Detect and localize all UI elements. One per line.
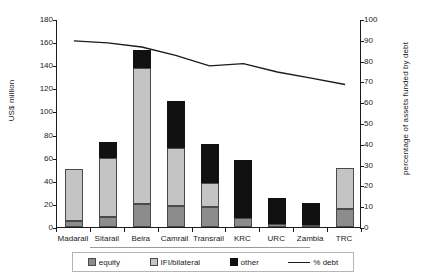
- legend-label: % debt: [313, 258, 338, 267]
- plot-area: 020406080100120140160180 010203040506070…: [56, 20, 361, 228]
- x-tickmark: [158, 228, 159, 232]
- y-tick-right-100: 100: [364, 16, 390, 24]
- chart-container: US$ million percentage of assets funded …: [0, 0, 425, 279]
- y-tick-right-30: 30: [364, 162, 390, 170]
- x-label-beira: Beira: [131, 234, 150, 243]
- legend-swatch-ifi-icon: [150, 258, 158, 266]
- legend-line-icon: [288, 262, 310, 263]
- y-tick-right-80: 80: [364, 58, 390, 66]
- x-tickmark: [259, 228, 260, 232]
- x-tickmark: [90, 228, 91, 232]
- x-label-krc: KRC: [234, 234, 251, 243]
- y-tick-left-120: 120: [27, 85, 53, 93]
- y-tick-left-40: 40: [27, 178, 53, 186]
- x-tickmark: [327, 228, 328, 232]
- y-tick-right-20: 20: [364, 182, 390, 190]
- y-axis-right-title: percentage of assets funded by debt: [401, 34, 410, 184]
- y-tick-right-70: 70: [364, 78, 390, 86]
- x-label-urc: URC: [268, 234, 285, 243]
- legend-item---debt[interactable]: % debt: [288, 258, 338, 267]
- y-tick-left-180: 180: [27, 16, 53, 24]
- y-tick-left-100: 100: [27, 108, 53, 116]
- y-tick-right-60: 60: [364, 99, 390, 107]
- legend-label: IFI/bilateral: [161, 258, 201, 267]
- x-label-transrail: Transrail: [193, 234, 224, 243]
- y-tick-right-0: 0: [364, 224, 390, 232]
- x-label-zambia: Zambia: [297, 234, 324, 243]
- x-tickmark: [124, 228, 125, 232]
- legend-label: other: [241, 258, 259, 267]
- legend-item-ifi-bilateral[interactable]: IFI/bilateral: [150, 258, 201, 267]
- y-tick-right-40: 40: [364, 141, 390, 149]
- legend-item-equity[interactable]: equity: [88, 258, 120, 267]
- y-tick-left-80: 80: [27, 132, 53, 140]
- y-tick-left-0: 0: [27, 224, 53, 232]
- x-tickmark: [192, 228, 193, 232]
- x-tickmark: [293, 228, 294, 232]
- y-tick-left-140: 140: [27, 62, 53, 70]
- x-label-madarail: Madarail: [58, 234, 89, 243]
- x-label-trc: TRC: [336, 234, 352, 243]
- x-tickmark: [361, 228, 362, 232]
- legend-item-other[interactable]: other: [230, 258, 259, 267]
- y-tick-left-160: 160: [27, 39, 53, 47]
- y-tick-right-90: 90: [364, 37, 390, 45]
- x-label-sitarail: Sitarail: [95, 234, 119, 243]
- y-tick-right-50: 50: [364, 120, 390, 128]
- y-tick-left-20: 20: [27, 201, 53, 209]
- percent-debt-line: [57, 20, 362, 228]
- legend-swatch-equity-icon: [88, 258, 96, 266]
- x-axis-underline: [90, 247, 310, 248]
- chart-legend: equityIFI/bilateralother% debt: [72, 252, 354, 272]
- legend-label: equity: [99, 258, 120, 267]
- x-label-camrail: Camrail: [161, 234, 189, 243]
- y-tick-right-10: 10: [364, 203, 390, 211]
- x-tickmark: [225, 228, 226, 232]
- y-tick-left-60: 60: [27, 155, 53, 163]
- y-axis-left-title: US$ million: [7, 46, 16, 156]
- x-tickmark: [56, 228, 57, 232]
- legend-swatch-other-icon: [230, 258, 238, 266]
